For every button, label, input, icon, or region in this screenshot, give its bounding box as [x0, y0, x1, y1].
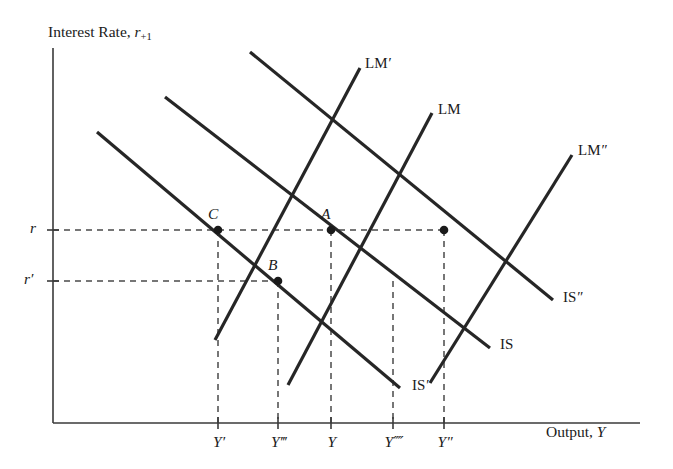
- Y-tick-label: Y: [328, 434, 337, 450]
- is-lm-svg: [0, 0, 673, 469]
- point-B-marker: [274, 277, 283, 286]
- point-unlabeled-right-marker: [440, 226, 449, 235]
- r-tick-label: r: [30, 220, 36, 236]
- is-double-curve-label: IS″: [563, 290, 583, 305]
- point-A-label: A: [321, 206, 330, 222]
- guide-lines-horizontal: [53, 230, 444, 281]
- y-axis-title: Interest Rate, r+1: [48, 24, 152, 42]
- point-C-marker: [214, 226, 223, 235]
- x-axis-title: Output, Y: [546, 424, 605, 440]
- Y-prime-tick-label: Y′: [213, 434, 225, 450]
- Y-quad-tick-label: Y⁗: [385, 434, 404, 450]
- Y-double-tick-label: Y″: [438, 434, 453, 450]
- is-prime-curve-label: IS′: [412, 378, 429, 393]
- point-C-label: C: [208, 206, 218, 222]
- guide-lines-vertical: [218, 230, 444, 423]
- lm-curve: [288, 113, 432, 385]
- tick-marks: [47, 230, 444, 429]
- point-B-label: B: [268, 257, 277, 273]
- is-double-curve: [250, 52, 553, 300]
- Y-triple-tick-label: Y‴: [271, 434, 287, 450]
- lm-curve-label: LM: [438, 102, 461, 117]
- is-curve-label: IS: [500, 337, 513, 352]
- point-A-marker: [327, 226, 336, 235]
- r-prime-tick-label: r′: [24, 271, 34, 287]
- lm-prime-curve-label: LM′: [365, 56, 391, 71]
- lm-prime-curve: [215, 68, 360, 340]
- figure-canvas: IS′ISIS″LM′LMLM″rr′Y′Y‴YY⁗Y″CAB Interest…: [0, 0, 673, 469]
- lm-double-curve-label: LM″: [578, 143, 607, 158]
